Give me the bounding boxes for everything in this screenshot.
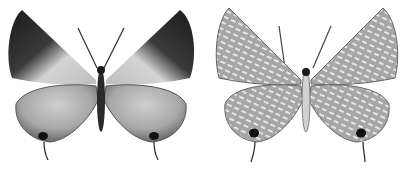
butterfly-upperside [0,0,205,171]
butterfly-upperside-illustration [0,0,205,171]
butterfly-underside [205,0,409,171]
butterfly-underside-illustration [205,0,409,171]
